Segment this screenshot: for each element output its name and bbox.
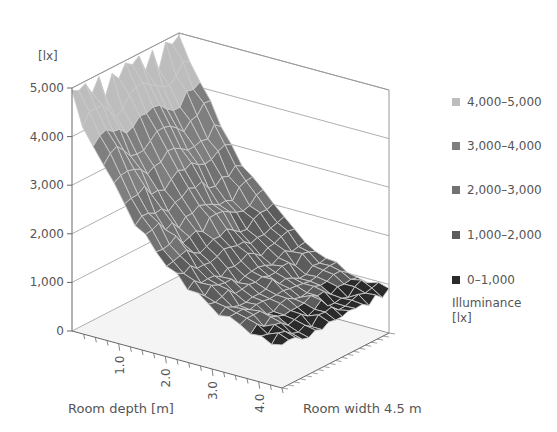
depth-tick-label: 3.0 xyxy=(206,381,220,400)
legend-item: 2,000–3,000 xyxy=(452,183,542,197)
legend-label: 4,000–5,000 xyxy=(467,95,542,109)
legend-swatch xyxy=(452,231,460,239)
legend-item: 0–1,000 xyxy=(452,273,515,287)
width-axis-title: Room width 4.5 m xyxy=(303,401,422,416)
legend-swatch xyxy=(452,276,460,284)
legend-title-unit: [lx] xyxy=(452,311,521,326)
z-tick-label: 1,000 xyxy=(30,275,64,289)
z-tick-label: 4,000 xyxy=(30,130,64,144)
legend-label: 1,000–2,000 xyxy=(467,228,542,242)
legend-label: 3,000–4,000 xyxy=(467,139,542,153)
legend-item: 4,000–5,000 xyxy=(452,95,542,109)
legend-title: Illuminance [lx] xyxy=(452,296,521,326)
legend-swatch xyxy=(452,186,460,194)
depth-tick-label: 4.0 xyxy=(253,394,267,413)
depth-tick-label: 2.0 xyxy=(159,368,173,387)
z-tick-label: 2,000 xyxy=(30,227,64,241)
z-tick-label: 5,000 xyxy=(30,81,64,95)
z-tick-label: 0 xyxy=(56,324,64,338)
legend-label: 2,000–3,000 xyxy=(467,183,542,197)
illuminance-surface xyxy=(72,35,389,345)
legend-swatch xyxy=(452,98,460,106)
depth-tick-label: 1.0 xyxy=(113,356,127,375)
z-tick-label: 3,000 xyxy=(30,178,64,192)
legend-title-line: Illuminance xyxy=(452,296,521,311)
surface-chart: 01,0002,0003,0004,0005,0001.02.03.04.0 [… xyxy=(0,0,557,432)
z-axis-unit: [lx] xyxy=(38,49,58,63)
legend-item: 1,000–2,000 xyxy=(452,228,542,242)
depth-axis-title: Room depth [m] xyxy=(68,401,174,416)
legend-item: 3,000–4,000 xyxy=(452,139,542,153)
legend-label: 0–1,000 xyxy=(467,273,515,287)
legend-swatch xyxy=(452,142,460,150)
